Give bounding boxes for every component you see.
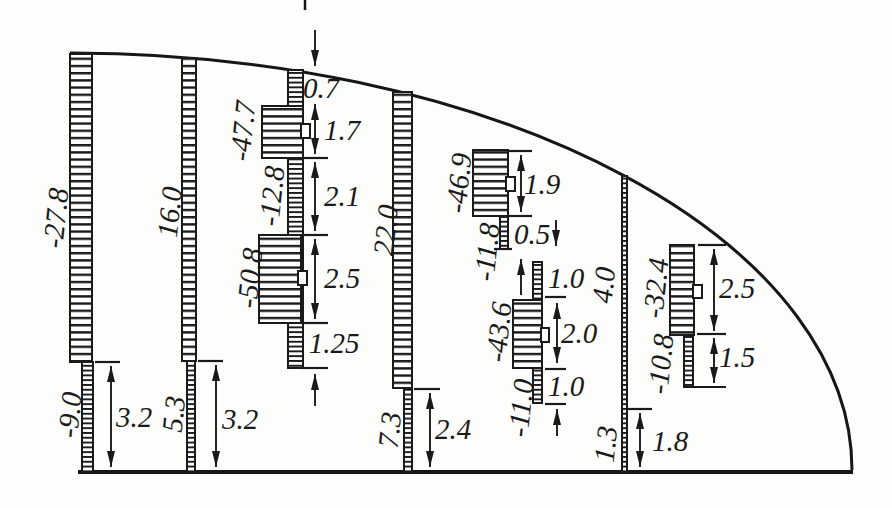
cross-section-figure: -27.8 -9.0 16.0 5.3 -47.7 -12.8 -50.8 22… bbox=[0, 0, 892, 508]
station-7-web-value-label: -10.8 bbox=[643, 332, 678, 395]
station-2-upper-value-label: 16.0 bbox=[153, 185, 187, 239]
station-3-upper-notch bbox=[301, 124, 310, 138]
station-3-dim-web-label: 2.1 bbox=[324, 182, 360, 211]
station-5-dim-stem-lower-label: 1.0 bbox=[548, 372, 584, 401]
station-7-dim-web-label: 1.5 bbox=[719, 343, 755, 372]
station-5-flange-lower-bar bbox=[513, 300, 542, 368]
station-5-lower-notch bbox=[541, 328, 549, 342]
station-4-dim-label: 2.4 bbox=[435, 415, 471, 444]
station-4-lower-value-label: 7.3 bbox=[374, 410, 407, 449]
station-5-flange-lower-value-label: -43.6 bbox=[481, 300, 516, 363]
station-5-upper-notch bbox=[506, 177, 515, 191]
station-6-dim-label: 1.8 bbox=[652, 427, 688, 456]
station-1-upper-value-label: -27.8 bbox=[38, 186, 73, 249]
station-2-dim-label: 3.2 bbox=[222, 405, 258, 434]
station-5-web-upper-value-label: -11.8 bbox=[470, 222, 505, 283]
station-2-lower-value-label: 5.3 bbox=[158, 394, 191, 433]
station-1-dim-label: 3.2 bbox=[116, 403, 152, 432]
station-5-flange-upper-bar bbox=[473, 150, 508, 216]
station-5-dim-flange-upper-label: 1.9 bbox=[524, 170, 560, 199]
station-3-lower-notch bbox=[298, 271, 307, 285]
station-3-web-value-label: -12.8 bbox=[254, 164, 289, 227]
station-6-upper-value-label: 4.0 bbox=[588, 265, 621, 304]
station-5-flange-upper-value-label: -46.9 bbox=[441, 151, 476, 214]
station-7-web-bar bbox=[684, 335, 693, 387]
station-3-flange-upper-value-label: -47.7 bbox=[225, 99, 260, 162]
station-5-dim-web-upper-label: 0.5 bbox=[514, 220, 550, 249]
station-5-dim-flange-lower-label: 2.0 bbox=[561, 319, 597, 348]
station-3-flange-lower-value-label: -50.8 bbox=[232, 246, 267, 309]
station-3-dim-bottom-label: 1.25 bbox=[309, 329, 360, 358]
station-5-dim-stem-upper-label: 1.0 bbox=[548, 264, 584, 293]
station-4-upper-value-label: 22.0 bbox=[369, 203, 403, 257]
station-6-lower-value-label: 1.3 bbox=[590, 424, 623, 463]
station-1-lower-value-label: -9.0 bbox=[53, 391, 87, 440]
station-3-dim-flange-upper-label: 1.7 bbox=[324, 116, 360, 145]
station-7-flange-value-label: -32.4 bbox=[638, 256, 673, 319]
station-3-dim-top-label: 0.7 bbox=[303, 74, 339, 103]
station-3-flange-upper-bar bbox=[262, 106, 303, 158]
station-5-web-lower-value-label: -11.0 bbox=[504, 378, 539, 439]
station-7-dim-flange-label: 2.5 bbox=[719, 274, 755, 303]
station-7-notch bbox=[693, 285, 702, 298]
station-3-dim-flange-lower-label: 2.5 bbox=[324, 264, 360, 293]
station-1-main-bar bbox=[70, 54, 92, 362]
